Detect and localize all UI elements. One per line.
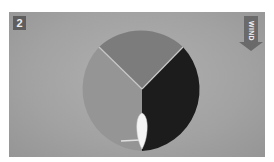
wind-label: WIND [244,19,258,43]
sailing-zones-diagram [0,0,274,162]
boom-icon [121,140,140,141]
step-number-badge: 2 [13,16,26,30]
